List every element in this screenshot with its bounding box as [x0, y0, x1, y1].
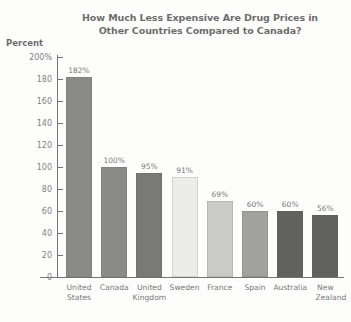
- category-label-line: New: [303, 283, 347, 293]
- bar: [242, 211, 268, 277]
- bar: [66, 77, 92, 277]
- bar-group: 100%: [101, 57, 127, 277]
- bar: [101, 167, 127, 277]
- bar-group: 56%: [312, 57, 338, 277]
- y-axis-tick-label: 200%: [16, 53, 52, 62]
- bar: [136, 173, 162, 278]
- bar-value-label: 69%: [200, 190, 240, 199]
- y-axis-tick-label: 20: [16, 251, 52, 260]
- bar: [207, 201, 233, 277]
- y-axis-tick-labels: 200%180160140120100806040200: [12, 0, 52, 322]
- y-axis-tick-label: 180: [16, 75, 52, 84]
- plot-area: 182%100%95%91%69%60%60%56%: [57, 57, 344, 277]
- chart-title-line-1: How Much Less Expensive Are Drug Prices …: [58, 12, 342, 25]
- y-axis-tick-label: 0: [16, 273, 52, 282]
- bar-value-label: 182%: [59, 66, 99, 75]
- x-axis-line: [40, 277, 344, 278]
- chart-title-line-2: Other Countries Compared to Canada?: [58, 25, 342, 38]
- x-axis-category-label: NewZealand: [303, 283, 347, 302]
- bar: [312, 215, 338, 277]
- bar-group: 69%: [207, 57, 233, 277]
- bar-group: 60%: [242, 57, 268, 277]
- y-axis-tick-label: 120: [16, 141, 52, 150]
- bar-value-label: 60%: [270, 200, 310, 209]
- bar: [277, 211, 303, 277]
- bar-value-label: 60%: [235, 200, 275, 209]
- bar-group: 95%: [136, 57, 162, 277]
- category-label-line: States: [57, 293, 101, 303]
- bar-group: 60%: [277, 57, 303, 277]
- y-axis-tick-label: 160: [16, 97, 52, 106]
- bar-value-label: 91%: [165, 166, 205, 175]
- bar-group: 182%: [66, 57, 92, 277]
- bar-group: 91%: [172, 57, 198, 277]
- y-axis-tick: [58, 277, 63, 278]
- bar-value-label: 100%: [94, 156, 134, 165]
- bar-value-label: 56%: [305, 204, 345, 213]
- y-axis-tick-label: 60: [16, 207, 52, 216]
- category-label-line: Zealand: [303, 293, 347, 303]
- y-axis-tick-label: 100: [16, 163, 52, 172]
- y-axis-tick-label: 140: [16, 119, 52, 128]
- bar-value-label: 95%: [129, 162, 169, 171]
- chart-title: How Much Less Expensive Are Drug Prices …: [58, 12, 342, 37]
- y-axis-tick-label: 40: [16, 229, 52, 238]
- y-axis-tick-label: 80: [16, 185, 52, 194]
- chart-figure: How Much Less Expensive Are Drug Prices …: [0, 0, 351, 322]
- category-label-line: Kingdom: [127, 293, 171, 303]
- bar: [172, 177, 198, 277]
